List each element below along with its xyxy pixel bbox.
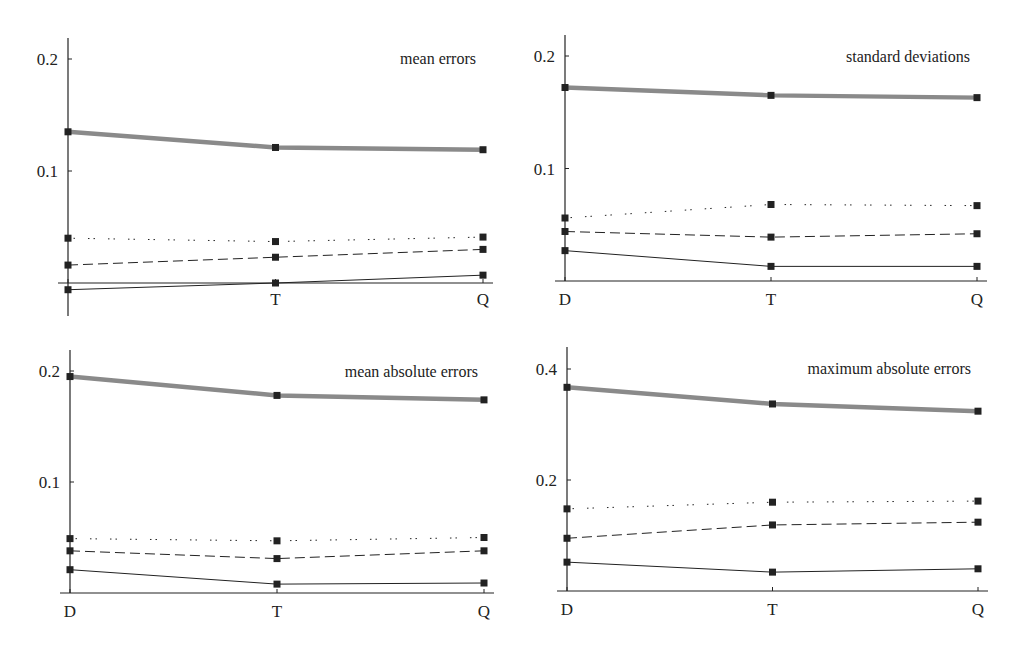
data-point-marker <box>274 581 281 588</box>
data-point-marker <box>769 499 776 506</box>
y-tick-label: 0.1 <box>39 473 60 492</box>
x-tick-label: T <box>272 602 283 621</box>
data-point-marker <box>480 246 487 253</box>
data-point-marker <box>481 534 488 541</box>
x-tick-label: T <box>766 290 777 309</box>
x-tick-label: D <box>559 290 571 309</box>
data-point-marker <box>272 144 279 151</box>
x-tick-label: T <box>767 600 778 619</box>
data-point-marker <box>769 400 776 407</box>
data-point-marker <box>481 547 488 554</box>
data-point-marker <box>768 263 775 270</box>
data-point-marker <box>65 235 72 242</box>
y-tick-label: 0.2 <box>536 471 557 490</box>
series-line-thick-gray <box>567 387 978 411</box>
y-tick-label: 0.2 <box>39 362 60 381</box>
data-point-marker <box>67 547 74 554</box>
y-tick-label: 0.2 <box>37 50 58 69</box>
data-point-marker <box>564 535 571 542</box>
data-point-marker <box>974 230 981 237</box>
data-point-marker <box>768 201 775 208</box>
x-tick-label: Q <box>478 602 490 621</box>
data-point-marker <box>974 202 981 209</box>
chart-panel-maximum-absolute-errors: maximum absolute errors 0.2 0.4 D T Q <box>536 347 988 619</box>
data-point-marker <box>562 228 569 235</box>
data-point-marker <box>769 569 776 576</box>
data-point-marker <box>564 559 571 566</box>
y-tick-label: 0.2 <box>534 47 555 66</box>
panel-title: mean errors <box>400 50 476 67</box>
data-point-marker <box>769 521 776 528</box>
x-tick-label: D <box>561 600 573 619</box>
data-point-marker <box>564 384 571 391</box>
data-point-marker <box>274 537 281 544</box>
chart-panel-mean-errors: mean errors 0.1 0.2 T Q <box>37 38 493 316</box>
data-point-marker <box>481 396 488 403</box>
data-point-marker <box>67 566 74 573</box>
chart-grid: mean errors 0.1 0.2 T Q standard deviati… <box>0 0 1022 657</box>
data-point-marker <box>65 286 72 293</box>
y-tick-label: 0.1 <box>37 162 58 181</box>
panel-title: maximum absolute errors <box>807 360 971 377</box>
data-point-marker <box>480 234 487 241</box>
data-point-marker <box>975 519 982 526</box>
x-tick-label: Q <box>971 290 983 309</box>
data-point-marker <box>272 280 279 287</box>
data-point-marker <box>274 392 281 399</box>
y-tick-label: 0.4 <box>536 360 558 379</box>
data-point-marker <box>974 94 981 101</box>
x-tick-label: D <box>64 602 76 621</box>
plot-area <box>58 38 493 316</box>
panel-title: mean absolute errors <box>345 363 478 380</box>
chart-panel-standard-deviations: standard deviations 0.1 0.2 D T Q <box>534 35 987 309</box>
plot-area <box>557 347 988 591</box>
y-tick-label: 0.1 <box>534 160 555 179</box>
data-point-marker <box>272 238 279 245</box>
plot-area <box>555 35 987 281</box>
x-tick-label: Q <box>972 600 984 619</box>
plot-area <box>60 350 494 593</box>
x-tick-label: T <box>270 290 281 309</box>
data-point-marker <box>975 498 982 505</box>
data-point-marker <box>67 373 74 380</box>
data-point-marker <box>481 580 488 587</box>
data-point-marker <box>564 505 571 512</box>
data-point-marker <box>974 263 981 270</box>
chart-panel-mean-absolute-errors: mean absolute errors 0.1 0.2 D T Q <box>39 350 494 621</box>
data-point-marker <box>480 272 487 279</box>
data-point-marker <box>480 146 487 153</box>
panel-title: standard deviations <box>846 48 970 65</box>
data-point-marker <box>975 408 982 415</box>
x-tick-label: Q <box>477 290 489 309</box>
data-point-marker <box>274 555 281 562</box>
data-point-marker <box>768 92 775 99</box>
data-point-marker <box>65 262 72 269</box>
data-point-marker <box>562 84 569 91</box>
data-point-marker <box>562 247 569 254</box>
data-point-marker <box>768 234 775 241</box>
data-point-marker <box>562 215 569 222</box>
data-point-marker <box>67 535 74 542</box>
data-point-marker <box>65 128 72 135</box>
data-point-marker <box>975 565 982 572</box>
data-point-marker <box>272 254 279 261</box>
